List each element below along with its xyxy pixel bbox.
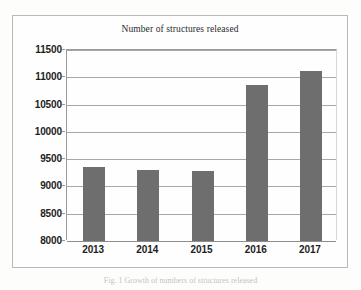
y-axis-tick-label: 11500 — [13, 44, 62, 55]
y-axis-tick-mark — [62, 240, 65, 241]
y-axis-tick-mark — [62, 104, 65, 105]
x-axis: 20132014201520162017 — [66, 244, 337, 262]
bar-2017 — [300, 71, 322, 241]
bar-2014 — [137, 170, 159, 241]
plot-area — [66, 49, 337, 240]
y-axis-tick-mark — [62, 185, 65, 186]
y-axis-tick-mark — [62, 131, 65, 132]
figure-frame: Number of structures released 2013201420… — [12, 15, 348, 268]
x-axis-tick-label: 2017 — [299, 244, 321, 255]
y-axis-tick-label: 9500 — [13, 153, 62, 164]
bar-2015 — [192, 171, 214, 241]
figure-caption: Fig. 1 Growth of numbers of structures r… — [18, 276, 343, 285]
y-axis-tick-mark — [62, 158, 65, 159]
y-axis-tick-label: 10500 — [13, 98, 62, 109]
y-axis-tick-label: 11000 — [13, 71, 62, 82]
chart-title: Number of structures released — [13, 24, 347, 34]
y-axis-tick-label: 8000 — [13, 235, 62, 246]
x-axis-tick-label: 2013 — [82, 244, 104, 255]
bar-2016 — [246, 85, 268, 241]
x-axis-tick-label: 2015 — [191, 244, 213, 255]
gridline-8000 — [67, 241, 336, 242]
x-axis-tick-label: 2014 — [136, 244, 158, 255]
bar-series — [67, 50, 336, 240]
y-axis-tick-mark — [62, 213, 65, 214]
x-axis-tick-label: 2016 — [245, 244, 267, 255]
y-axis-tick-mark — [62, 76, 65, 77]
y-axis-tick-label: 8500 — [13, 207, 62, 218]
y-axis-tick-mark — [62, 49, 65, 50]
bar-2013 — [83, 167, 105, 241]
y-axis-tick-label: 10000 — [13, 125, 62, 136]
y-axis-tick-label: 9000 — [13, 180, 62, 191]
